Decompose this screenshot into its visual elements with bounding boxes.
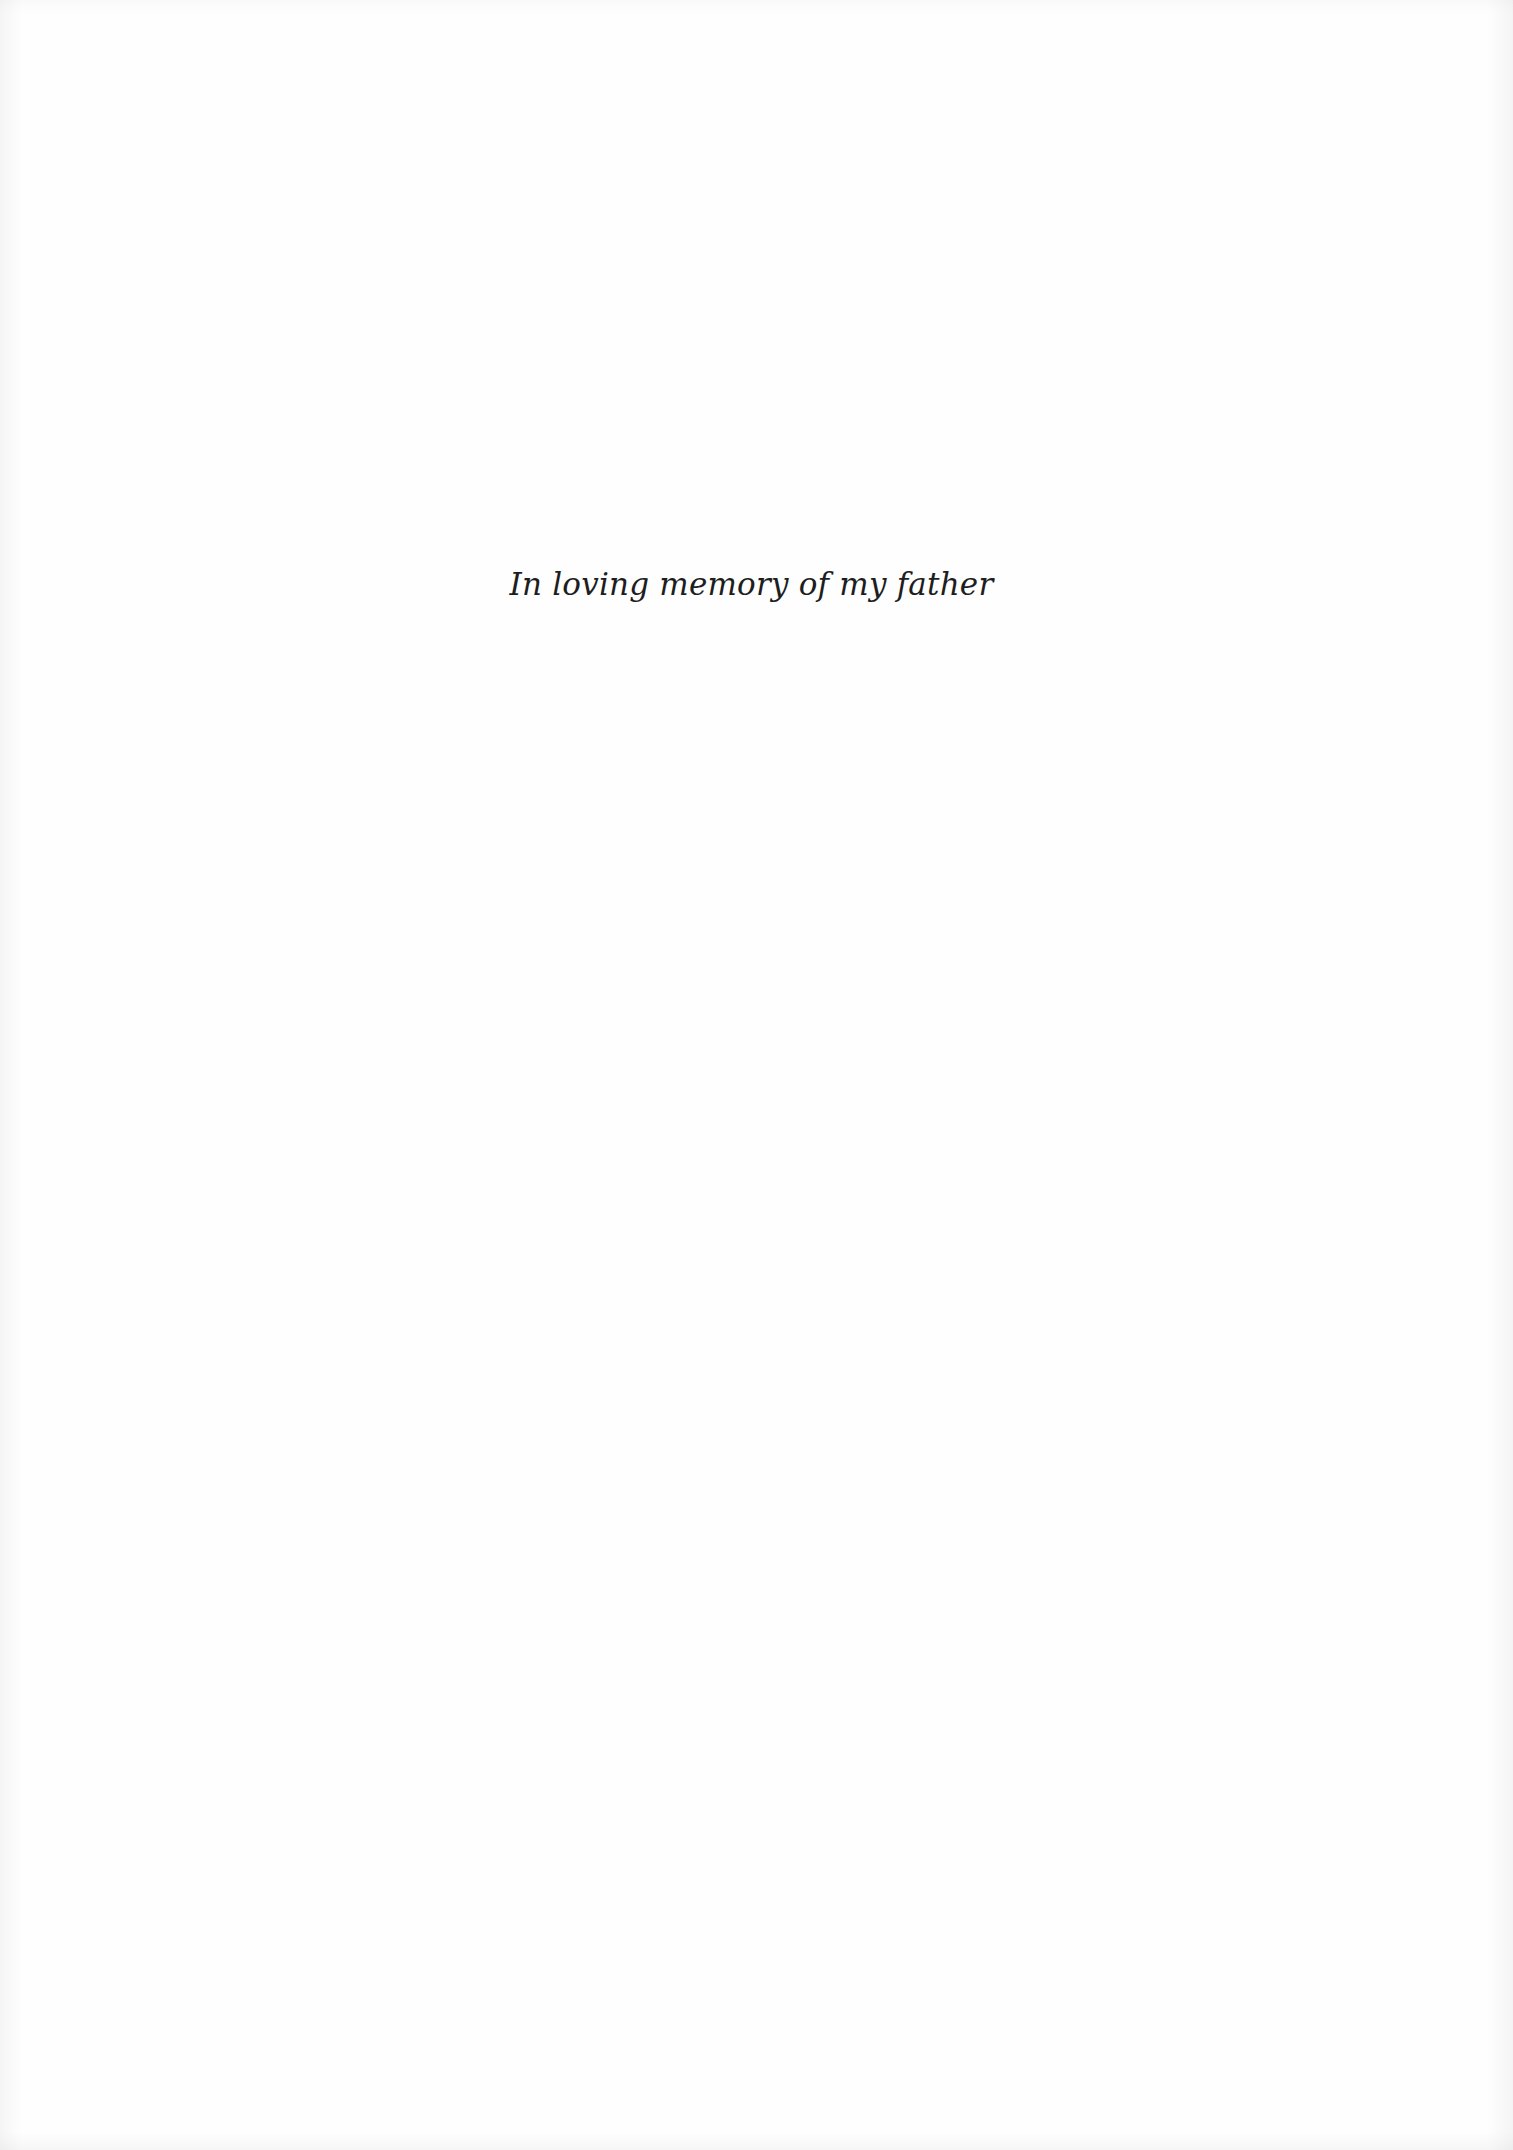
book-page: In loving memory of my father bbox=[0, 0, 1513, 2150]
dedication-text: In loving memory of my father bbox=[0, 558, 1513, 610]
